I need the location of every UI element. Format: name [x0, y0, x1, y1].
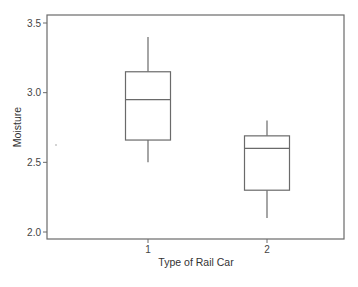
boxes — [126, 37, 290, 218]
y-axis-label: Moisture — [11, 107, 23, 147]
box-group-1 — [126, 37, 171, 162]
y-tick-label: 2.5 — [27, 157, 41, 168]
y-tick-label: 3.5 — [27, 18, 41, 29]
x-tick-label: 2 — [264, 244, 270, 255]
y-axis: 2.02.53.03.5 — [27, 18, 47, 238]
y-tick-label: 2.0 — [27, 227, 41, 238]
box-group-2 — [245, 121, 290, 219]
x-tick-label: 1 — [145, 244, 151, 255]
plot-frame — [47, 15, 344, 239]
box-plot: 2.02.53.03.5 12 Type of Rail Car Moistur… — [0, 0, 358, 287]
x-axis-label: Type of Rail Car — [158, 256, 234, 268]
iqr-box — [126, 72, 171, 140]
stray-dot — [55, 144, 56, 145]
iqr-box — [245, 136, 290, 190]
y-tick-label: 3.0 — [27, 87, 41, 98]
x-axis: 12 — [145, 239, 270, 255]
